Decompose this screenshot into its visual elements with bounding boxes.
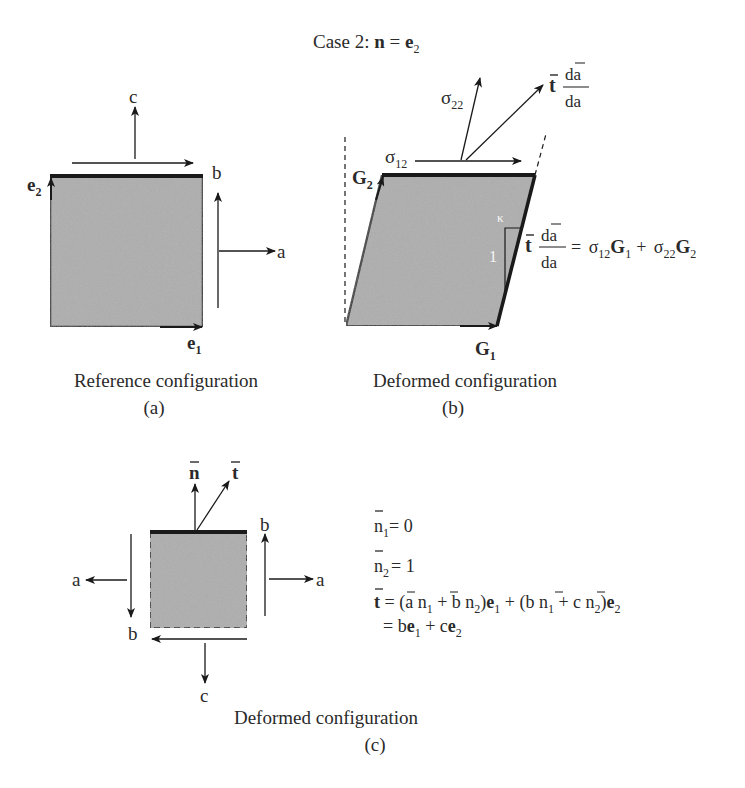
caption-c: Deformed configuration [234, 707, 419, 728]
label-a-left: a [72, 569, 81, 590]
label-sigma22: σ22 [441, 87, 463, 112]
tag-c: (c) [364, 734, 385, 756]
svg-text:= σ12G1+ σ22G2: = σ12G1+ σ22G2 [571, 236, 696, 261]
figure-title: Case 2: n = e2 [313, 31, 419, 56]
svg-text:da: da [541, 253, 558, 272]
traction-arrow [466, 85, 543, 160]
label-G2: G2 [352, 167, 373, 192]
label-kappa: κ [497, 210, 504, 225]
figure-canvas: Case 2: n = e2 c b a e2 e1 Reference con… [0, 0, 745, 788]
svg-text:Case 2: n = e2: Case 2: n = e2 [313, 31, 419, 56]
svg-text:t = (a n1 + b n2)e1: t = (a n1 + b n2)e1 + (b n1 + c n2)e2 [374, 592, 621, 616]
panel-c-deformed-configuration: n t a a b b c n1= 0 n2= 1 [72, 462, 621, 756]
equation-traction-result: = be1 + ce2 [383, 616, 462, 640]
tag-b: (b) [442, 397, 464, 419]
panel-c-equations: n1= 0 n2= 1 t = (a n1 + b n2)e1 + (b n1 … [374, 511, 621, 640]
svg-text:da: da [565, 92, 582, 111]
svg-text:n: n [189, 462, 200, 483]
label-c: c [129, 86, 137, 107]
traction-equation-b: t da da = σ12G1+ σ22G2 [525, 224, 696, 272]
deformed-parallelogram [346, 175, 535, 326]
panel-a-reference-configuration: c b a e2 e1 Reference configuration (a) [27, 86, 286, 419]
label-a-right: a [316, 569, 325, 590]
svg-text:n2= 1: n2= 1 [374, 556, 415, 580]
equation-n2: n2= 1 [374, 551, 415, 580]
svg-text:= be1 + ce2: = be1 + ce2 [383, 616, 462, 640]
label-b-right: b [260, 514, 270, 535]
panel-b-deformed-configuration: κ 1 σ22 σ12 G2 G1 t da da t da da = [345, 63, 696, 419]
element-square [150, 532, 247, 628]
label-one: 1 [489, 248, 497, 265]
tag-a: (a) [143, 397, 164, 419]
caption-b: Deformed configuration [373, 370, 558, 391]
equation-n1: n1= 0 [374, 511, 413, 540]
label-c: c [200, 685, 208, 706]
t-bar-arrow [197, 481, 229, 530]
label-n-bar: n [189, 462, 200, 483]
equation-traction: t = (a n1 + b n2)e1 + (b n1 + c n2)e2 [374, 589, 621, 616]
label-b: b [212, 162, 222, 183]
svg-text:da: da [565, 65, 582, 84]
svg-text:da: da [541, 226, 558, 245]
svg-text:t: t [232, 462, 239, 483]
label-sigma12: σ12 [385, 146, 407, 171]
label-t-bar: t [231, 462, 240, 483]
label-b-left: b [128, 623, 138, 644]
label-G1: G1 [475, 338, 496, 363]
label-a: a [277, 241, 286, 262]
svg-text:t: t [525, 234, 532, 256]
dashed-extension-right [535, 134, 546, 175]
label-e1: e1 [187, 332, 201, 357]
svg-text:n1= 0: n1= 0 [374, 516, 413, 540]
svg-text:t: t [549, 74, 556, 96]
traction-label: t da da [549, 63, 589, 111]
sigma22-arrow [461, 78, 480, 160]
reference-square [50, 176, 203, 327]
label-e2: e2 [27, 174, 41, 199]
caption-a: Reference configuration [74, 370, 259, 391]
